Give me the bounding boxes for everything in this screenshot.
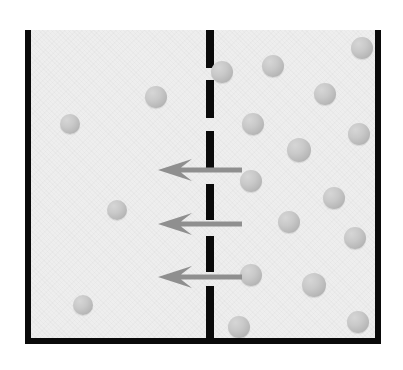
solute-particle-right-9 xyxy=(323,187,345,209)
solute-particle-right-5 xyxy=(314,83,336,105)
solute-particle-right-11 xyxy=(344,227,366,249)
solute-particle-left-4 xyxy=(73,295,93,315)
membrane-dash-1 xyxy=(206,30,214,68)
solute-particle-right-1 xyxy=(211,61,233,83)
solute-particle-right-10 xyxy=(278,211,300,233)
left-wall xyxy=(25,30,31,344)
diffusion-figure xyxy=(0,0,403,370)
solute-particle-right-6 xyxy=(348,123,370,145)
solute-particle-right-16 xyxy=(347,311,369,333)
solute-particle-right-12 xyxy=(240,264,262,286)
solute-particle-right-7 xyxy=(287,138,311,162)
solute-particle-left-1 xyxy=(60,114,80,134)
flux-arrow-3 xyxy=(158,265,242,289)
solute-particle-right-4 xyxy=(242,113,264,135)
solute-particle-right-13 xyxy=(302,273,326,297)
solute-particle-right-2 xyxy=(262,55,284,77)
bottom-wall xyxy=(25,338,381,344)
membrane-dash-6 xyxy=(206,286,214,338)
flux-arrow-2 xyxy=(158,212,242,236)
solute-particle-right-15 xyxy=(228,316,250,338)
solute-particle-right-8 xyxy=(240,170,262,192)
solute-particle-left-3 xyxy=(107,200,127,220)
membrane-dash-2 xyxy=(206,80,214,118)
right-wall xyxy=(375,30,381,344)
flux-arrow-1 xyxy=(158,158,242,182)
solute-particle-right-3 xyxy=(351,37,373,59)
solute-particle-left-2 xyxy=(145,86,167,108)
